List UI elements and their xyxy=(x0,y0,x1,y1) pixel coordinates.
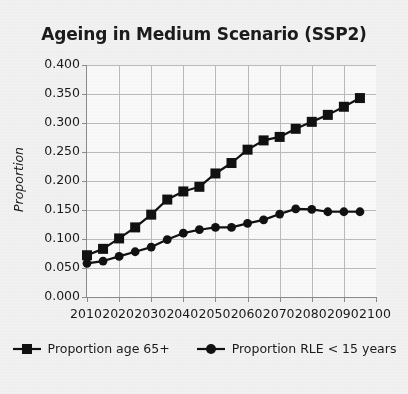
square-marker-icon xyxy=(82,250,92,260)
square-marker-icon xyxy=(162,195,172,205)
legend-entry-label: Proportion RLE < 15 years xyxy=(232,341,397,356)
y-tick-label: 0.150 xyxy=(26,203,80,216)
x-tick-mark xyxy=(119,297,120,302)
square-marker-icon xyxy=(227,158,237,168)
y-tick-label: 0.000 xyxy=(26,290,80,303)
plot-area xyxy=(86,65,376,298)
x-tick-mark xyxy=(280,297,281,302)
square-marker-icon xyxy=(194,182,204,192)
square-marker-icon xyxy=(339,102,349,112)
x-tick-mark xyxy=(376,297,377,302)
square-marker-icon xyxy=(259,135,269,145)
circle-marker-icon xyxy=(356,207,365,216)
square-marker-icon xyxy=(323,110,333,120)
square-marker-icon xyxy=(307,117,317,127)
circle-marker-icon xyxy=(323,207,332,216)
legend-entry-1[interactable]: Proportion age 65+ xyxy=(12,341,170,356)
legend-entry-label: Proportion age 65+ xyxy=(48,341,170,356)
series-line xyxy=(87,98,360,255)
circle-marker-icon xyxy=(196,342,226,356)
square-marker-icon xyxy=(114,233,124,243)
y-tick-label: 0.100 xyxy=(26,232,80,245)
x-tick-mark xyxy=(183,297,184,302)
series-line xyxy=(87,209,360,264)
chart-figure: Ageing in Medium Scenario (SSP2) Proport… xyxy=(0,0,408,394)
x-tick-mark xyxy=(248,297,249,302)
circle-marker-icon xyxy=(211,223,220,232)
circle-marker-icon xyxy=(291,204,300,213)
square-marker-icon xyxy=(130,222,140,232)
x-tick-mark xyxy=(344,297,345,302)
square-marker-icon xyxy=(12,342,42,356)
square-marker-icon xyxy=(275,132,285,142)
y-tick-label: 0.300 xyxy=(26,116,80,129)
x-tick-mark xyxy=(87,297,88,302)
circle-marker-icon xyxy=(227,223,236,232)
circle-marker-icon xyxy=(307,205,316,214)
square-marker-icon xyxy=(291,124,301,134)
square-marker-icon xyxy=(178,186,188,196)
circle-marker-icon xyxy=(243,219,252,228)
y-tick-label: 0.050 xyxy=(26,261,80,274)
page-title: Ageing in Medium Scenario (SSP2) xyxy=(0,24,408,44)
data-series-1 xyxy=(82,93,365,260)
circle-marker-icon xyxy=(99,257,108,266)
y-tick-label: 0.400 xyxy=(26,58,80,71)
y-tick-label: 0.250 xyxy=(26,145,80,158)
circle-marker-icon xyxy=(275,210,284,219)
chart-legend: Proportion age 65+Proportion RLE < 15 ye… xyxy=(0,341,408,356)
circle-marker-icon xyxy=(131,247,140,256)
square-marker-icon xyxy=(210,168,220,178)
circle-marker-icon xyxy=(259,215,268,224)
circle-marker-icon xyxy=(179,229,188,238)
series-layer xyxy=(87,65,376,297)
circle-marker-icon xyxy=(195,225,204,234)
square-marker-icon xyxy=(146,210,156,220)
x-tick-mark xyxy=(215,297,216,302)
x-tick-mark xyxy=(312,297,313,302)
data-series-2 xyxy=(83,204,365,267)
x-tick-label: 2100 xyxy=(355,308,395,321)
y-tick-label: 0.350 xyxy=(26,87,80,100)
circle-marker-icon xyxy=(163,235,172,244)
square-marker-icon xyxy=(243,145,253,155)
legend-entry-2[interactable]: Proportion RLE < 15 years xyxy=(196,341,397,356)
circle-marker-icon xyxy=(83,259,92,268)
circle-marker-icon xyxy=(339,207,348,216)
x-tick-mark xyxy=(151,297,152,302)
circle-marker-icon xyxy=(115,252,124,261)
square-marker-icon xyxy=(98,244,108,254)
y-tick-label: 0.200 xyxy=(26,174,80,187)
circle-marker-icon xyxy=(147,243,156,252)
y-axis-title: Proportion xyxy=(11,135,26,225)
square-marker-icon xyxy=(355,93,365,103)
